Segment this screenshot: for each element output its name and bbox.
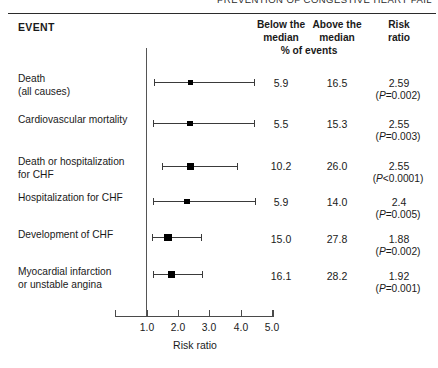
value-above-median: 16.5 [300,77,374,89]
reference-line [146,48,147,316]
p-symbol: P [379,283,386,294]
ci-lower-cap [152,234,153,241]
p-symbol: P [379,246,386,257]
confidence-interval-line [153,274,202,275]
value-above-median: 14.0 [300,196,374,208]
p-value-suffix: =0.002) [386,246,421,257]
p-value-suffix: =0.003) [386,131,421,142]
confidence-interval-line [153,201,255,202]
row-label: Death or hospitalization for CHF [18,155,143,181]
value-p-value: (P=0.003) [358,131,438,142]
value-above-median: 26.0 [300,160,374,172]
point-estimate-marker [187,121,193,127]
axis-tick [209,310,210,317]
forest-plot-figure: PREVENTION OF CONGESTIVE HEART FAIL EVEN… [0,0,438,368]
value-above-median: 15.3 [300,118,374,130]
value-p-value: (P<0.0001) [358,173,438,184]
confidence-interval-line [154,82,254,83]
point-estimate-marker [187,163,194,170]
value-p-value: (P=0.005) [358,209,438,220]
running-head: PREVENTION OF CONGESTIVE HEART FAIL [217,0,432,5]
p-symbol: P [379,131,386,142]
row-label: Myocardial infarction or unstable angina [18,265,143,291]
value-p-value: (P=0.002) [358,246,438,257]
ci-upper-cap [255,198,256,205]
ci-lower-cap [162,163,163,170]
axis-title: Risk ratio [120,339,270,351]
value-risk-ratio: 2.4 [364,196,434,208]
ci-lower-cap [153,198,154,205]
point-estimate-marker [188,80,193,85]
ci-lower-cap [154,79,155,86]
point-estimate-marker [168,271,175,278]
p-value-suffix: <0.0001) [383,173,424,184]
row-label: Hospitalization for CHF [18,191,143,204]
value-risk-ratio: 2.59 [364,77,434,89]
row-label: Death (all causes) [18,72,143,98]
point-estimate-marker [164,234,172,242]
ci-upper-cap [254,120,255,127]
p-value-suffix: =0.001) [386,283,421,294]
header-rule [8,13,436,14]
axis-tick [178,310,179,317]
column-header-risk-ratio: Risk ratio [364,19,434,44]
value-p-value: (P=0.002) [358,90,438,101]
value-p-value: (P=0.001) [358,283,438,294]
value-above-median: 27.8 [300,233,374,245]
value-risk-ratio: 2.55 [364,160,434,172]
axis-tick-label: 4.0 [224,322,258,333]
axis-right-end [273,310,274,317]
ci-upper-cap [201,234,202,241]
ci-upper-cap [254,79,255,86]
p-value-suffix: =0.002) [386,90,421,101]
axis-left-end [115,310,116,317]
point-estimate-marker [184,199,190,205]
confidence-interval-line [162,166,237,167]
ci-lower-cap [153,120,154,127]
p-symbol: P [379,209,386,220]
axis-tick-label: 1.0 [130,322,164,333]
axis-tick-label: 3.0 [192,322,226,333]
value-risk-ratio: 2.55 [364,118,434,130]
column-header-above-median: Above the median [300,19,374,44]
column-header-percent-of-events: % of events [272,45,346,56]
ci-lower-cap [153,271,154,278]
p-symbol: P [379,90,386,101]
axis-tick [147,310,148,317]
axis-tick-label: 2.0 [161,322,195,333]
row-label: Development of CHF [18,228,143,241]
axis-line [115,316,273,317]
ci-upper-cap [202,271,203,278]
axis-tick [241,310,242,317]
axis-tick-label: 5.0 [255,322,289,333]
confidence-interval-line [152,237,201,238]
value-risk-ratio: 1.88 [364,233,434,245]
row-label: Cardiovascular mortality [18,113,143,126]
ci-upper-cap [237,163,238,170]
p-symbol: P [376,173,383,184]
column-header-event: EVENT [18,21,55,33]
confidence-interval-line [153,123,254,124]
p-value-suffix: =0.005) [386,209,421,220]
value-above-median: 28.2 [300,270,374,282]
value-risk-ratio: 1.92 [364,270,434,282]
